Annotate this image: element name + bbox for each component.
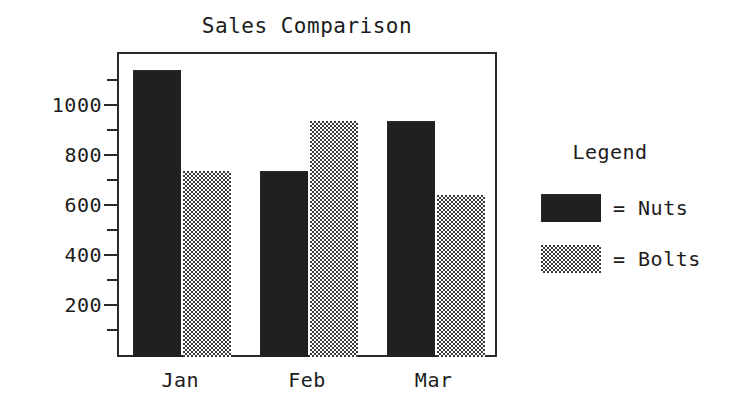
x-axis-label-jan: Jan (117, 368, 244, 392)
bar-bolts-mar (437, 195, 485, 358)
bar-chart-figure: Sales Comparison 2004006008001000 JanFeb… (0, 0, 739, 418)
y-axis-label: 1000 (18, 93, 102, 117)
legend-label-nuts: = Nuts (613, 196, 688, 220)
x-axis-label-mar: Mar (370, 368, 497, 392)
nuts-swatch (541, 194, 601, 222)
y-axis-label: 200 (18, 293, 102, 317)
chart-title: Sales Comparison (117, 14, 497, 38)
bar-bolts-feb (310, 121, 358, 357)
y-axis-label: 800 (18, 143, 102, 167)
bar-nuts-feb (260, 171, 308, 357)
y-axis-label: 600 (18, 193, 102, 217)
y-axis-label: 400 (18, 243, 102, 267)
bar-nuts-mar (387, 121, 435, 357)
legend-label-bolts: = Bolts (613, 247, 701, 271)
bar-bolts-jan (183, 171, 231, 357)
plot-area (119, 54, 495, 355)
bolts-swatch (541, 245, 601, 273)
legend-title: Legend (520, 140, 700, 164)
plot-frame (117, 52, 497, 357)
x-axis-label-feb: Feb (244, 368, 371, 392)
bar-nuts-jan (133, 70, 181, 358)
